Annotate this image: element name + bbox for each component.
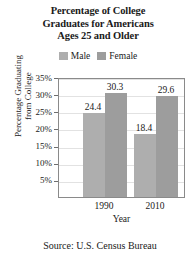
- legend-label-female: Female: [109, 51, 137, 61]
- bar-value-label: 18.4: [130, 123, 158, 133]
- gridline: [59, 79, 184, 80]
- y-axis-tick-label: 5%: [18, 176, 52, 185]
- bar-chart-figure: Percentage of College Graduates for Amer…: [0, 0, 196, 266]
- chart-title-line-1: Percentage of College: [18, 5, 178, 18]
- bar: [83, 113, 105, 197]
- y-axis-tick-label: 15%: [18, 142, 52, 151]
- legend-entry-female: Female: [97, 51, 137, 61]
- y-axis-tick-label: 35%: [18, 74, 52, 83]
- legend-swatch-female-icon: [97, 52, 106, 60]
- chart-legend: Male Female: [18, 51, 178, 61]
- y-axis-tick-label: 30%: [18, 91, 52, 100]
- y-axis-tick-label: 25%: [18, 108, 52, 117]
- bar-value-label: 30.3: [101, 82, 129, 92]
- x-axis-tick-label: 1990: [81, 201, 127, 212]
- x-axis-title: Year: [58, 214, 185, 225]
- chart-title: Percentage of College Graduates for Amer…: [18, 5, 178, 43]
- bar: [156, 96, 178, 197]
- bar: [105, 93, 127, 197]
- plot-area: [58, 78, 185, 198]
- legend-label-male: Male: [71, 51, 91, 61]
- chart-title-line-2: Graduates for Americans: [18, 18, 178, 31]
- bar-value-label: 29.6: [152, 85, 180, 95]
- bar-value-label: 24.4: [79, 102, 107, 112]
- y-axis-tick-label: 20%: [18, 125, 52, 134]
- legend-entry-male: Male: [59, 51, 91, 61]
- source-note: Source: U.S. Census Bureau: [10, 240, 190, 252]
- x-axis-tick-label: 2010: [132, 201, 178, 212]
- legend-swatch-male-icon: [59, 52, 68, 60]
- y-axis-tick-label: 10%: [18, 159, 52, 168]
- bar: [134, 134, 156, 197]
- chart-title-line-3: Ages 25 and Older: [18, 30, 178, 43]
